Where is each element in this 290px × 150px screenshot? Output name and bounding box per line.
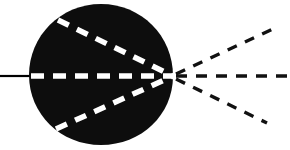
ray-diagram-canvas bbox=[0, 0, 290, 150]
ray-diagram-container bbox=[0, 0, 290, 150]
